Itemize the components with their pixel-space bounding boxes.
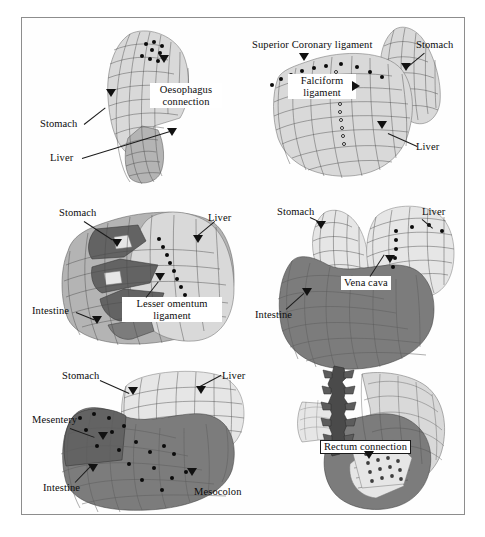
mesh-node (440, 229, 444, 233)
mesh-node (134, 440, 138, 444)
stomach-label: Stomach (40, 118, 77, 130)
liver-label: Liver (50, 152, 73, 164)
mesh-node (279, 77, 283, 81)
figure-border-frame: Oesophagus connection Stomach Liver (21, 17, 465, 515)
falciform-node (338, 102, 342, 106)
stomach-arrow-marker (401, 63, 411, 71)
lesser-omentum-line2: ligament (125, 310, 219, 322)
mesh-node (172, 452, 176, 456)
mesh-node (355, 65, 359, 69)
mesh-node (168, 261, 172, 265)
mesh-node (270, 83, 274, 87)
mesh-node (165, 253, 169, 257)
mesocolon-arrow-marker (187, 468, 197, 476)
intestine-label: Intestine (255, 309, 292, 321)
mesh-node (95, 444, 99, 448)
mesh-node (160, 44, 164, 48)
lesser-omentum-line1: Lesser omentum (125, 298, 219, 310)
lesser-omentum-arrow-marker (155, 273, 165, 281)
falciform-node (340, 126, 344, 130)
mesh-node (152, 466, 156, 470)
liver-arrow-marker (196, 386, 206, 394)
mesh-node (339, 62, 343, 66)
oesophagus-arrow-marker (159, 55, 169, 63)
stomach-arrow-marker (128, 387, 138, 395)
liver-label: Liver (416, 141, 439, 153)
mesh-node (144, 42, 148, 46)
mesh-node (140, 478, 144, 482)
mesh-node (92, 412, 96, 416)
intestine-arrow-marker (302, 288, 312, 296)
mesh-node (368, 70, 372, 74)
lesser-omentum-ligament-label: Lesser omentum ligament (122, 297, 222, 322)
oesophagus-connection-line1: Oesophagus (153, 84, 219, 96)
mesh-node (117, 448, 121, 452)
superior-coronary-ligament-label: Superior Coronary ligament (252, 39, 372, 51)
falciform-node (338, 110, 342, 114)
mesh-node (148, 450, 152, 454)
mesentery-arrow-marker (98, 432, 108, 440)
intestine-label: Intestine (32, 305, 69, 317)
stomach-arrow-marker (106, 89, 116, 97)
falciform-node (339, 118, 343, 122)
liver-label: Liver (422, 206, 445, 218)
mesh-node (162, 444, 166, 448)
stomach-label: Stomach (59, 207, 96, 219)
mesh-node (150, 48, 154, 52)
vena-cava-arrow-marker (385, 255, 395, 263)
mesh-node (172, 269, 176, 273)
falciform-node (341, 134, 345, 138)
mesh-node (300, 69, 304, 73)
falciform-ligament-arrow-marker (352, 81, 360, 91)
mesh-node (160, 488, 164, 492)
stomach-label: Stomach (277, 206, 314, 218)
mesentery-label: Mesentery (32, 414, 77, 426)
mesh-node (152, 40, 156, 44)
falciform-line2: ligament (291, 87, 353, 99)
mesh-node (161, 245, 165, 249)
stomach-label: Stomach (62, 370, 99, 382)
falciform-node (342, 142, 346, 146)
falciform-line1: Falciform (291, 75, 353, 87)
superior-coronary-ligament-arrow-marker (299, 53, 309, 61)
mesh-node (122, 424, 126, 428)
panel-oesophagus-connection: Oesophagus connection Stomach Liver (22, 18, 244, 193)
mesocolon-label: Mesocolon (194, 486, 242, 498)
mesh-node (394, 229, 398, 233)
panel-mesentery-mesocolon: Stomach Liver Mesentery Intestine Mesoco… (22, 358, 262, 516)
mesh-node (394, 238, 398, 242)
mesh-node (391, 265, 395, 269)
mesh-node (312, 66, 316, 70)
intestine-arrow-marker (92, 316, 102, 324)
intestine-mesh-panel4 (274, 249, 439, 374)
mesh-node (179, 285, 183, 289)
stomach-arrow-marker (112, 239, 122, 247)
mesh-node (170, 476, 174, 480)
mesh-node (175, 277, 179, 281)
mesh-node (324, 64, 328, 68)
panel-coronary-falciform-ligament: Superior Coronary ligament Falciform lig… (244, 18, 466, 193)
mesh-node (84, 428, 88, 432)
liver-arrow-marker (193, 235, 203, 243)
rectum-connection-arrow-marker (364, 451, 374, 459)
mesh-node (127, 462, 131, 466)
stomach-label: Stomach (416, 39, 453, 51)
mesh-node (78, 416, 82, 420)
oesophagus-connection-label: Oesophagus connection (150, 83, 222, 108)
intestine-liver-mesh-panel3 (54, 207, 239, 347)
falciform-ligament-label: Falciform ligament (288, 74, 356, 99)
oesophagus-connection-line2: connection (153, 96, 219, 108)
panel-vena-cava: Stomach Liver Vena cava Intestine (244, 193, 466, 358)
vena-cava-label: Vena cava (341, 276, 391, 290)
intestine-arrow-marker (88, 464, 98, 472)
liver-arrow-marker (377, 121, 387, 129)
mesh-node (394, 247, 398, 251)
mesh-node (107, 416, 111, 420)
panel-lesser-omentum-ligament: Stomach Liver Lesser omentum ligament In… (22, 193, 244, 358)
mesh-node (410, 225, 414, 229)
intestine-label: Intestine (43, 482, 80, 494)
mesh-node (140, 54, 144, 58)
panel-rectum-connection: Rectum connection (272, 358, 466, 516)
liver-label: Liver (222, 370, 245, 382)
liver-mesh-panel2 (268, 52, 428, 182)
